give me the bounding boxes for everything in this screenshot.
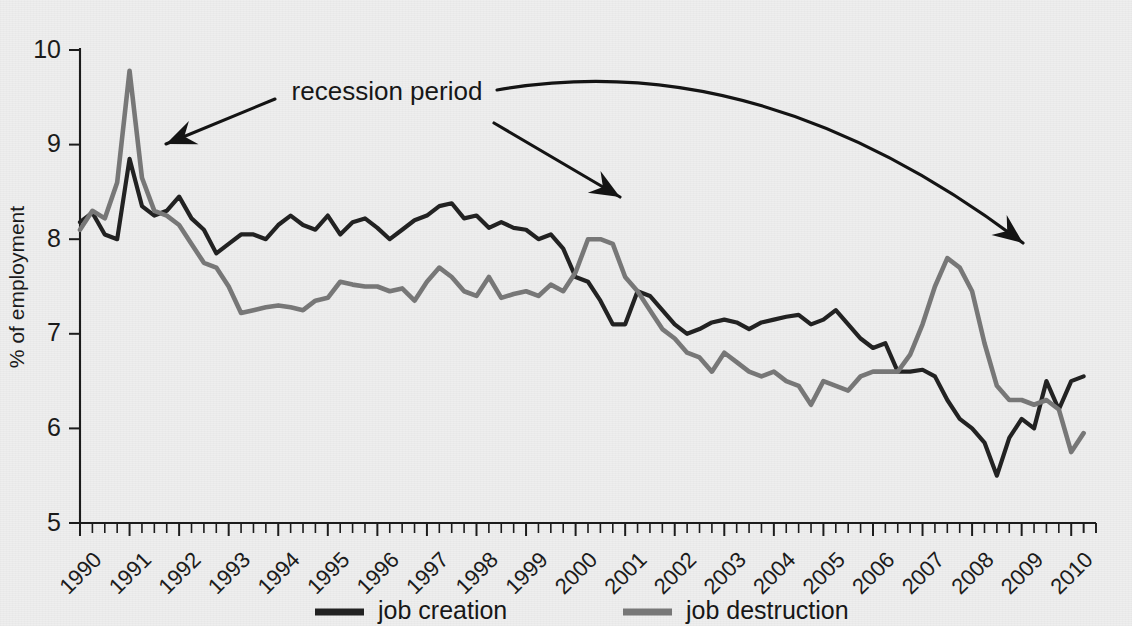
recession-period-label: recession period (292, 76, 483, 106)
series-line-job-creation (80, 159, 1084, 476)
x-axis-tick-label: 1999 (500, 547, 552, 599)
x-axis-tick-label: 2009 (996, 547, 1048, 599)
x-axis-tick-label: 1992 (153, 547, 205, 599)
x-axis-tick-label: 2005 (798, 547, 850, 599)
arrow-head-icon (992, 215, 1024, 243)
x-axis-tick-label: 2002 (649, 547, 701, 599)
arrow-head-icon (588, 171, 620, 197)
x-axis-tick-label: 2006 (847, 547, 899, 599)
x-axis-tick-label: 1993 (203, 547, 255, 599)
y-axis-tick-label: 8 (47, 224, 61, 252)
x-axis-tick-label: 2000 (550, 547, 602, 599)
y-axis-title: % of employment (5, 206, 28, 368)
x-axis-tick-label: 1996 (352, 547, 404, 599)
series-line-job-destruction (80, 71, 1084, 452)
x-axis-tick-label: 2001 (599, 547, 651, 599)
x-axis-tick-label: 1998 (451, 547, 503, 599)
x-axis: 1990199119921993199419951996199719981999… (54, 523, 1098, 599)
y-axis-tick-label: 10 (33, 35, 61, 63)
employment-flows-line-chart: 5678910 19901991199219931994199519961997… (0, 0, 1132, 626)
x-axis-tick-label: 1997 (401, 547, 453, 599)
x-axis-tick-label: 2010 (1045, 547, 1097, 599)
y-axis-tick-label: 9 (47, 129, 61, 157)
arrow-2008-recession (497, 81, 1023, 243)
x-axis-tick-label: 2008 (946, 547, 998, 599)
x-axis-tick-label: 1990 (54, 547, 106, 599)
chart-container: 5678910 19901991199219931994199519961997… (0, 0, 1132, 626)
y-axis-tick-label: 5 (47, 508, 61, 536)
x-axis-tick-label: 2007 (897, 547, 949, 599)
legend-label-job-creation: job creation (377, 596, 507, 624)
x-axis-tick-label: 1991 (104, 547, 156, 599)
x-axis-tick-label: 2004 (748, 547, 800, 599)
x-axis-tick-label: 1994 (252, 547, 304, 599)
chart-legend: job creationjob destruction (315, 596, 849, 624)
y-axis-tick-label: 6 (47, 413, 61, 441)
x-axis-tick-label: 2003 (699, 547, 751, 599)
y-axis: 5678910 (33, 35, 80, 536)
x-axis-tick-label: 1995 (302, 547, 354, 599)
legend-label-job-destruction: job destruction (685, 596, 849, 624)
y-axis-tick-label: 7 (47, 318, 61, 346)
data-series-group (80, 71, 1084, 476)
arrow-2001-recession (494, 123, 620, 197)
